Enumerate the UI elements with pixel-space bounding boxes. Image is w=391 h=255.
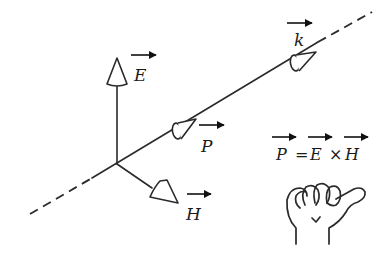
cross-product-equation: P = E × H bbox=[272, 137, 368, 164]
em-wave-diagram: E H P k P = E × H bbox=[0, 0, 391, 255]
svg-text:H: H bbox=[344, 145, 360, 164]
h-label: H bbox=[185, 194, 211, 224]
wave-vector-cone bbox=[289, 52, 316, 72]
svg-text:P: P bbox=[275, 145, 287, 164]
svg-text:k: k bbox=[294, 30, 304, 50]
k-label: k bbox=[287, 23, 312, 50]
svg-text:×: × bbox=[329, 145, 342, 164]
svg-text:=: = bbox=[295, 145, 308, 164]
right-hand-icon bbox=[287, 184, 365, 244]
h-field-vector bbox=[117, 164, 178, 203]
e-field-vector bbox=[107, 58, 127, 164]
e-label: E bbox=[131, 55, 156, 85]
poynting-vector-cone bbox=[171, 119, 196, 140]
p-label: P bbox=[199, 125, 224, 156]
svg-text:P: P bbox=[200, 136, 213, 156]
svg-text:E: E bbox=[309, 145, 322, 164]
svg-text:H: H bbox=[185, 204, 202, 224]
svg-text:E: E bbox=[133, 65, 147, 85]
